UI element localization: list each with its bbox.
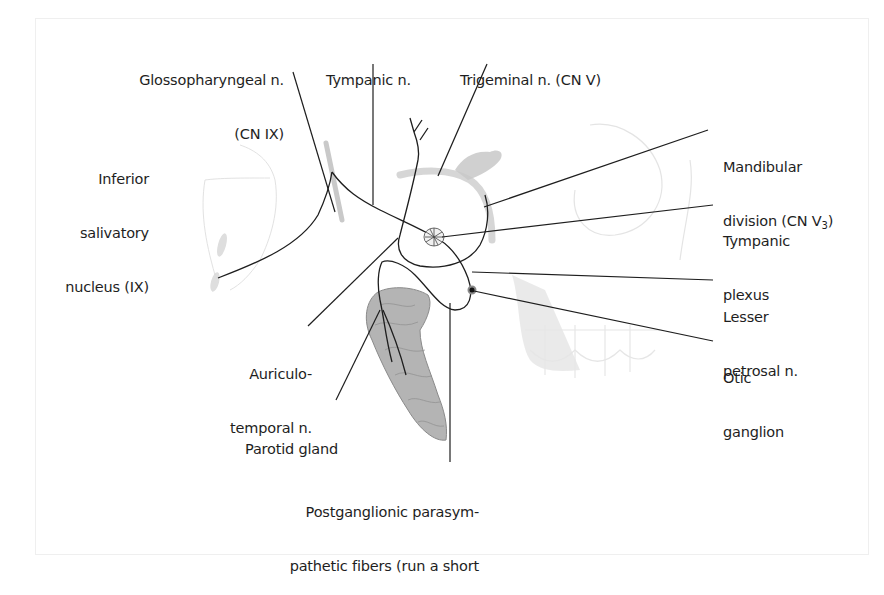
label-trigeminal-nerve: Trigeminal n. (CN V) [460,35,601,107]
leader-otic-ganglion [474,291,713,341]
label-tympanic-nerve: Tympanic n. [326,35,411,107]
skull-background [574,124,691,260]
label-line: Parotid gland [245,440,338,458]
label-otic-ganglion: Otic ganglion [723,333,784,459]
label-postganglionic-fibers: Postganglionic parasym- pathetic fibers … [290,467,479,595]
label-line: nucleus (IX) [65,278,149,296]
leader-lesser-petrosal [472,272,713,280]
label-line: Tympanic n. [326,71,411,89]
leader-mandibular [484,130,708,207]
label-line: pathetic fibers (run a short [290,557,479,575]
label-line: Lesser [723,308,798,326]
glossopharyngeal-nerve [218,172,332,278]
label-line: Auriculo- [230,365,312,383]
leader-tympanic-plexus [442,205,713,237]
label-line: (CN IX) [139,125,284,143]
label-line: Otic [723,369,784,387]
nerve-branch-top [414,132,419,160]
label-line: Inferior [65,170,149,188]
label-line: Tympanic [723,232,790,250]
otic-ganglion [469,287,476,294]
label-line: Trigeminal n. (CN V) [460,71,601,89]
nerve-branch-top-2 [410,118,428,140]
label-inferior-salivatory-nucleus: Inferior salivatory nucleus (IX) [65,134,149,314]
brainstem-outline [203,145,276,290]
maxilla-shading [512,275,580,371]
label-line: Postganglionic parasym- [290,503,479,521]
leader-parotid [336,310,380,400]
teeth-outline [525,325,660,378]
label-line: Glossopharyngeal n. [139,71,284,89]
label-line: Mandibular [723,158,833,176]
label-line: ganglion [723,423,784,441]
label-glossopharyngeal-nerve: Glossopharyngeal n. (CN IX) [139,35,284,161]
label-parotid-gland: Parotid gland [245,404,338,476]
label-text: ) [828,213,833,229]
tympanic-plexus [424,228,444,246]
tympanic-nerve-path [332,172,440,240]
parotid-gland [366,288,446,440]
label-line: salivatory [65,224,149,242]
leader-lines [293,64,713,462]
